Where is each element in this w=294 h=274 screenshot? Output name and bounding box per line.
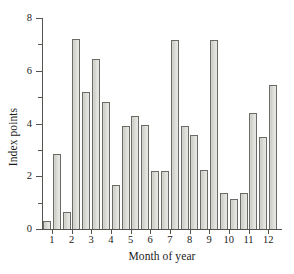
bar <box>151 171 159 229</box>
bar <box>112 185 120 229</box>
y-tick-label: 0 <box>18 224 32 235</box>
bar <box>131 116 139 229</box>
bar <box>220 193 228 229</box>
bar <box>102 102 110 229</box>
bar <box>72 39 80 229</box>
x-axis-line <box>42 229 282 230</box>
y-tick-label: 4 <box>18 119 32 130</box>
bar <box>269 85 277 229</box>
bar <box>181 126 189 229</box>
bar <box>190 135 198 229</box>
bar <box>230 199 238 229</box>
bar <box>141 125 149 229</box>
bar-chart-figure: Index points 02468 123456789101112 Month… <box>0 0 294 274</box>
x-axis-title: Month of year <box>42 250 282 262</box>
x-tick-label: 9 <box>200 235 218 246</box>
bar <box>259 137 267 229</box>
bar <box>53 154 61 229</box>
x-tick-label: 11 <box>240 235 258 246</box>
y-tick-label: 2 <box>18 171 32 182</box>
bar <box>200 170 208 229</box>
x-tick-label: 6 <box>141 235 159 246</box>
bar <box>122 126 130 229</box>
plot-area <box>42 18 278 229</box>
bar <box>82 92 90 229</box>
bar <box>92 59 100 229</box>
bar <box>249 113 257 229</box>
y-tick-major <box>36 229 42 230</box>
bar <box>63 212 71 229</box>
bar <box>210 40 218 229</box>
bar <box>240 193 248 229</box>
x-tick-label: 10 <box>220 235 238 246</box>
y-tick-label: 6 <box>18 66 32 77</box>
x-tick-label: 1 <box>43 235 61 246</box>
x-tick-label: 3 <box>82 235 100 246</box>
x-tick-label: 12 <box>259 235 277 246</box>
x-tick-label: 4 <box>102 235 120 246</box>
bar <box>161 171 169 229</box>
x-tick-label: 2 <box>63 235 81 246</box>
bar <box>171 40 179 229</box>
x-tick-label: 7 <box>161 235 179 246</box>
x-tick-label: 8 <box>181 235 199 246</box>
y-tick-label: 8 <box>18 13 32 24</box>
x-tick-label: 5 <box>122 235 140 246</box>
bar <box>43 221 51 229</box>
